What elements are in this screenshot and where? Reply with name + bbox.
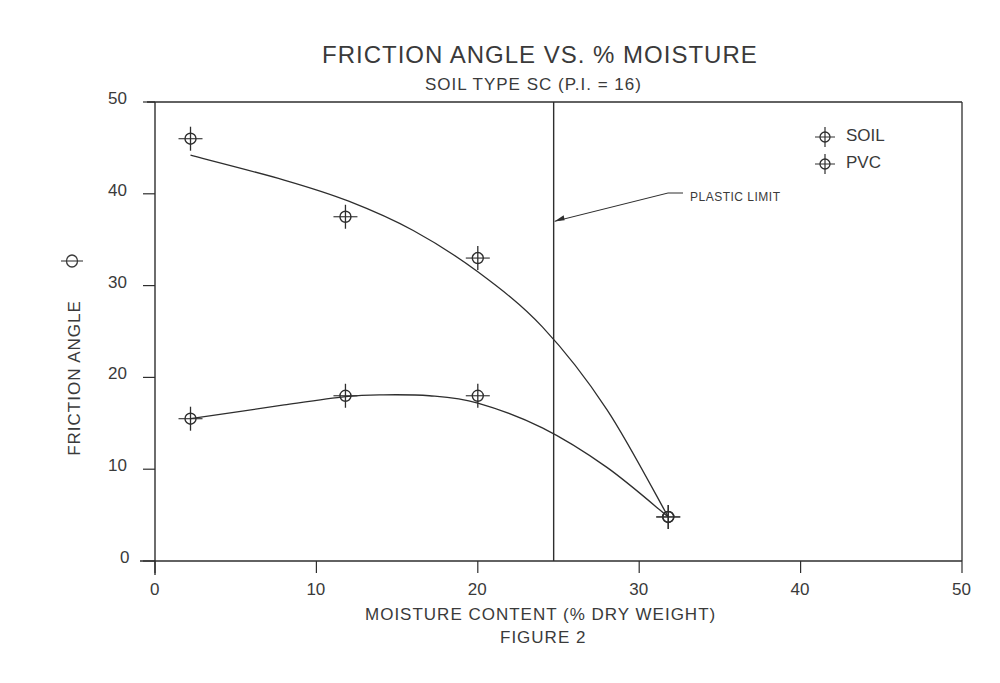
x-tick-label: 40 bbox=[791, 580, 810, 600]
data-point-pvc bbox=[656, 505, 680, 529]
circle-cross-marker-icon bbox=[812, 124, 838, 154]
x-axis-label: MOISTURE CONTENT (% DRY WEIGHT) bbox=[365, 605, 716, 625]
chart-title: FRICTION ANGLE VS. % MOISTURE bbox=[322, 41, 758, 69]
y-tick-label: 30 bbox=[108, 273, 127, 293]
figure-caption: FIGURE 2 bbox=[500, 628, 586, 648]
x-tick-label: 20 bbox=[468, 580, 487, 600]
plastic-limit-arrow bbox=[555, 193, 683, 221]
legend-label-pvc: PVC bbox=[846, 153, 881, 173]
y-axis-label: FRICTION ANGLE bbox=[65, 300, 85, 456]
circle-cross-marker-icon bbox=[812, 151, 838, 181]
arrowhead-icon bbox=[555, 215, 565, 221]
chart-subtitle: SOIL TYPE SC (P.I. = 16) bbox=[425, 75, 642, 95]
y-tick-label: 40 bbox=[108, 181, 127, 201]
data-point-pvc bbox=[333, 384, 357, 408]
y-tick-label: 0 bbox=[120, 548, 129, 568]
x-tick-label: 10 bbox=[306, 580, 325, 600]
x-tick-label: 30 bbox=[629, 580, 648, 600]
legend-label-soil: SOIL bbox=[846, 126, 885, 146]
y-tick-label: 10 bbox=[108, 456, 127, 476]
data-point-pvc bbox=[179, 407, 203, 431]
y-tick-label: 50 bbox=[108, 89, 127, 109]
data-point-soil bbox=[333, 205, 357, 229]
fit-curve-soil bbox=[191, 155, 669, 517]
data-point-soil bbox=[179, 127, 203, 151]
data-point-pvc bbox=[466, 384, 490, 408]
y-axis-phi-icon bbox=[61, 250, 83, 276]
y-tick-label: 20 bbox=[108, 364, 127, 384]
x-tick-label: 0 bbox=[150, 580, 159, 600]
x-tick-label: 50 bbox=[952, 580, 971, 600]
plastic-limit-annotation: PLASTIC LIMIT bbox=[690, 190, 781, 204]
fit-curve-pvc bbox=[191, 395, 669, 517]
